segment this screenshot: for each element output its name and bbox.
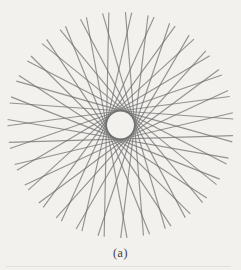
figure-caption: (a) <box>0 246 241 260</box>
figure-page: (a) <box>0 0 241 270</box>
scan-artifact-line <box>6 266 231 267</box>
tangent-line-pattern <box>0 0 241 248</box>
